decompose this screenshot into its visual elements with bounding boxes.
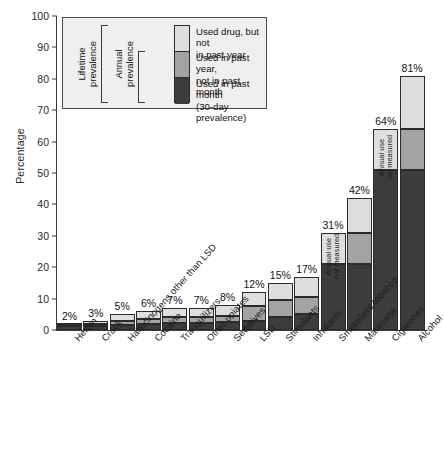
legend-swatch-lifetime-only (175, 26, 189, 52)
y-tick-mark-60 (52, 141, 57, 142)
segment-annual-not-month (347, 233, 372, 264)
legend-swatch-stack (174, 25, 190, 103)
y-tick-label-40: 40 (15, 198, 49, 210)
y-tick-mark-90 (52, 47, 57, 48)
segment-lifetime-only (400, 76, 425, 129)
y-tick-label-50: 50 (15, 167, 49, 179)
y-tick-label-70: 70 (15, 104, 49, 116)
y-tick-label-100: 100 (15, 10, 49, 22)
y-tick-mark-80 (52, 78, 57, 79)
segment-lifetime-only (268, 283, 293, 300)
y-tick-mark-30 (52, 235, 57, 236)
legend-label-past-month: Used in past month (30-day prevalence) (196, 78, 266, 124)
y-tick-mark-70 (52, 110, 57, 111)
bracket-label-lifetime: Lifetime prevalence (77, 25, 98, 103)
legend-swatch-past-month (175, 78, 189, 104)
legend-label-past-month-line2: (30-day prevalence) (196, 101, 266, 124)
y-tick-label-90: 90 (15, 41, 49, 53)
legend-label-lifetime-only-line1: Used drug, but not (196, 26, 266, 49)
legend-label-annual-not-month-line1: Used in past year, (196, 52, 266, 75)
y-tick-label-60: 60 (15, 136, 49, 148)
bracket-label-annual-line1: Annual (114, 25, 125, 103)
y-tick-label-20: 20 (15, 261, 49, 273)
annotation-annual-not-measured: Annual usenot measured (325, 197, 342, 317)
y-tick-mark-10 (52, 298, 57, 299)
segment-lifetime-only (294, 277, 319, 297)
bar-alcohol (400, 76, 425, 330)
bracket-label-lifetime-line2: prevalence (88, 25, 99, 103)
segment-annual-not-month (268, 300, 293, 317)
y-tick-mark-50 (52, 173, 57, 174)
bracket-label-annual: Annual prevalence (114, 25, 135, 103)
y-tick-mark-40 (52, 204, 57, 205)
bar-value-label: 81% (382, 62, 442, 74)
segment-lifetime-only (57, 323, 82, 325)
segment-lifetime-only (347, 198, 372, 233)
y-tick-mark-100 (52, 16, 57, 17)
bracket-label-annual-line2: prevalence (125, 25, 136, 103)
y-tick-label-80: 80 (15, 73, 49, 85)
bracket-lifetime (101, 25, 108, 103)
y-tick-label-30: 30 (15, 230, 49, 242)
legend-label-past-month-line1: Used in past month (196, 78, 266, 101)
y-tick-mark-20 (52, 267, 57, 268)
y-tick-label-0: 0 (15, 324, 49, 336)
bracket-label-lifetime-line1: Lifetime (77, 25, 88, 103)
y-axis-title: Percentage (14, 106, 26, 206)
y-tick-label-10: 10 (15, 293, 49, 305)
legend-box: Used drug, but not in past year Used in … (62, 17, 267, 109)
legend-swatch-annual-not-month (175, 52, 189, 78)
segment-annual-not-month (400, 129, 425, 170)
bracket-annual (138, 51, 145, 103)
